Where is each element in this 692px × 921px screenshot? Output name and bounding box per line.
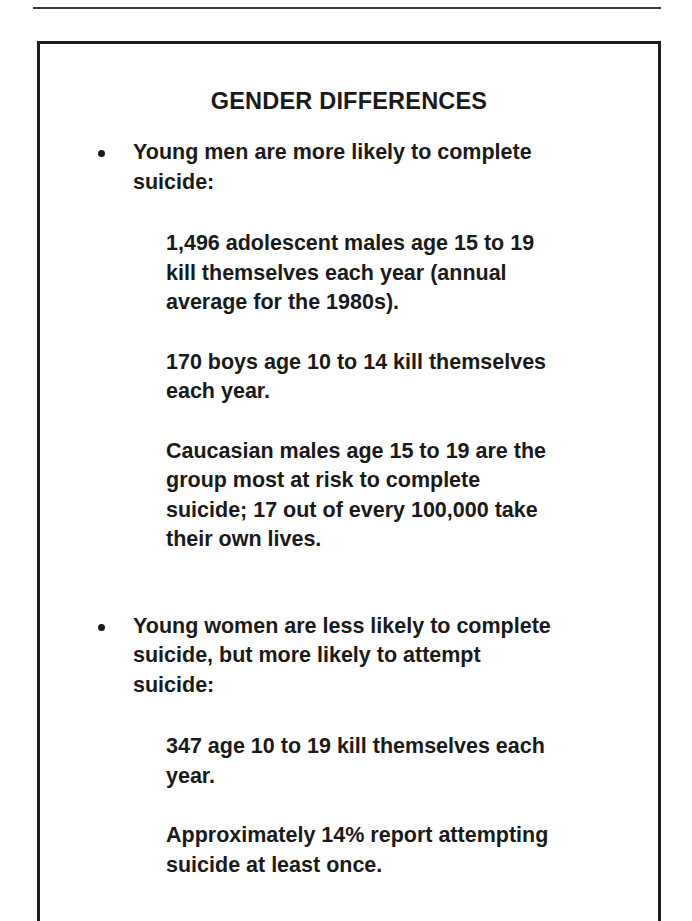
bullet-dot-icon [98, 150, 105, 157]
slide-frame: GENDER DIFFERENCES Young men are more li… [37, 41, 661, 921]
bullet-dot-icon [98, 624, 105, 631]
sub-paragraph: 1,496 adolescent males age 15 to 19 kill… [166, 229, 566, 318]
sub-paragraph: Approximately 14% report attempting suic… [166, 821, 566, 880]
sub-paragraph: 170 boys age 10 to 14 kill themselves ea… [166, 348, 566, 407]
slide-body: Young men are more likely to complete su… [40, 138, 658, 880]
sub-paragraph: 347 age 10 to 19 kill themselves each ye… [166, 732, 566, 791]
bullet-marker-icon [40, 138, 133, 168]
bullet-text: Young women are less likely to complete … [133, 612, 553, 701]
bullet-item: Young women are less likely to complete … [40, 612, 658, 701]
page-title: GENDER DIFFERENCES [40, 89, 658, 115]
bullet-marker-icon [40, 612, 133, 642]
bullet-text: Young men are more likely to complete su… [133, 138, 553, 197]
header-rule-divider [33, 7, 661, 9]
bullet-item: Young men are more likely to complete su… [40, 138, 658, 197]
sub-paragraph: Caucasian males age 15 to 19 are the gro… [166, 437, 566, 555]
